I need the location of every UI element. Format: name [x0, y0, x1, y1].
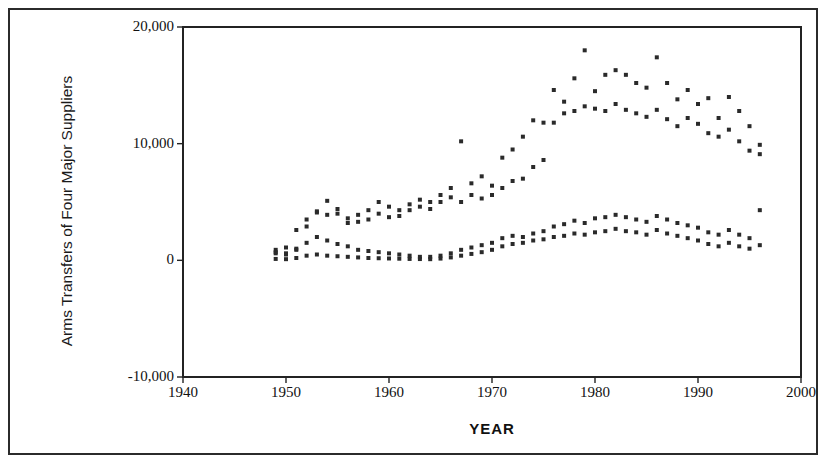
data-point	[572, 76, 576, 80]
data-point	[366, 218, 370, 222]
data-point	[356, 248, 360, 252]
data-point	[552, 121, 556, 125]
data-point	[428, 257, 432, 261]
data-point	[603, 73, 607, 77]
data-point	[500, 244, 504, 248]
data-point	[346, 244, 350, 248]
data-point	[696, 122, 700, 126]
data-point	[748, 124, 752, 128]
data-point	[469, 181, 473, 185]
data-point	[572, 232, 576, 236]
data-point	[459, 200, 463, 204]
data-point	[675, 221, 679, 225]
data-point	[469, 193, 473, 197]
data-point	[572, 219, 576, 223]
data-point	[655, 214, 659, 218]
data-point	[562, 100, 566, 104]
data-point	[294, 228, 298, 232]
data-point	[315, 235, 319, 239]
y-tick-label: 10,000	[80, 135, 174, 152]
data-point	[634, 218, 638, 222]
data-point	[377, 212, 381, 216]
tick-marks	[177, 27, 801, 383]
data-point	[377, 200, 381, 204]
data-point	[469, 246, 473, 250]
data-point	[758, 143, 762, 147]
data-point	[366, 208, 370, 212]
x-tick-label: 1940	[143, 384, 223, 401]
data-point	[521, 241, 525, 245]
data-point	[614, 227, 618, 231]
data-point	[531, 165, 535, 169]
data-point	[645, 233, 649, 237]
data-point	[758, 208, 762, 212]
data-point	[686, 88, 690, 92]
data-point	[665, 117, 669, 121]
data-point	[583, 221, 587, 225]
data-point	[356, 255, 360, 259]
data-point	[315, 253, 319, 257]
data-point	[449, 251, 453, 255]
data-point	[521, 177, 525, 181]
data-point	[758, 243, 762, 247]
data-point	[603, 229, 607, 233]
data-point	[387, 215, 391, 219]
data-points-layer	[274, 48, 762, 261]
data-point	[562, 111, 566, 115]
data-point	[305, 218, 309, 222]
data-point	[274, 251, 278, 255]
data-point	[686, 116, 690, 120]
data-point	[624, 229, 628, 233]
data-point	[583, 104, 587, 108]
data-point	[717, 244, 721, 248]
x-tick-label: 1980	[555, 384, 635, 401]
y-tick-label: 20,000	[80, 18, 174, 35]
data-point	[346, 255, 350, 259]
data-point	[593, 89, 597, 93]
data-point	[325, 199, 329, 203]
data-point	[480, 174, 484, 178]
data-point	[366, 256, 370, 260]
data-point	[696, 102, 700, 106]
data-point	[449, 186, 453, 190]
data-point	[552, 235, 556, 239]
data-point	[531, 118, 535, 122]
data-point	[593, 216, 597, 220]
data-point	[686, 236, 690, 240]
data-point	[305, 254, 309, 258]
data-point	[696, 239, 700, 243]
data-point	[408, 202, 412, 206]
data-point	[387, 205, 391, 209]
data-point	[490, 184, 494, 188]
data-point	[511, 148, 515, 152]
data-point	[284, 253, 288, 257]
data-point	[603, 109, 607, 113]
data-point	[459, 139, 463, 143]
data-point	[706, 242, 710, 246]
data-point	[583, 48, 587, 52]
data-point	[336, 254, 340, 258]
data-point	[408, 257, 412, 261]
data-point	[665, 218, 669, 222]
data-point	[346, 221, 350, 225]
data-point	[439, 257, 443, 261]
y-tick-label: 0	[80, 251, 174, 268]
data-point	[459, 248, 463, 252]
data-point	[439, 200, 443, 204]
data-point	[397, 208, 401, 212]
data-point	[542, 158, 546, 162]
data-point	[469, 252, 473, 256]
data-point	[511, 234, 515, 238]
data-point	[480, 243, 484, 247]
data-point	[737, 233, 741, 237]
data-point	[274, 257, 278, 261]
data-point	[377, 250, 381, 254]
data-point	[748, 247, 752, 251]
data-point	[428, 207, 432, 211]
data-point	[315, 211, 319, 215]
data-point	[490, 241, 494, 245]
data-point	[624, 108, 628, 112]
data-point	[614, 68, 618, 72]
data-point	[552, 88, 556, 92]
data-point	[418, 257, 422, 261]
